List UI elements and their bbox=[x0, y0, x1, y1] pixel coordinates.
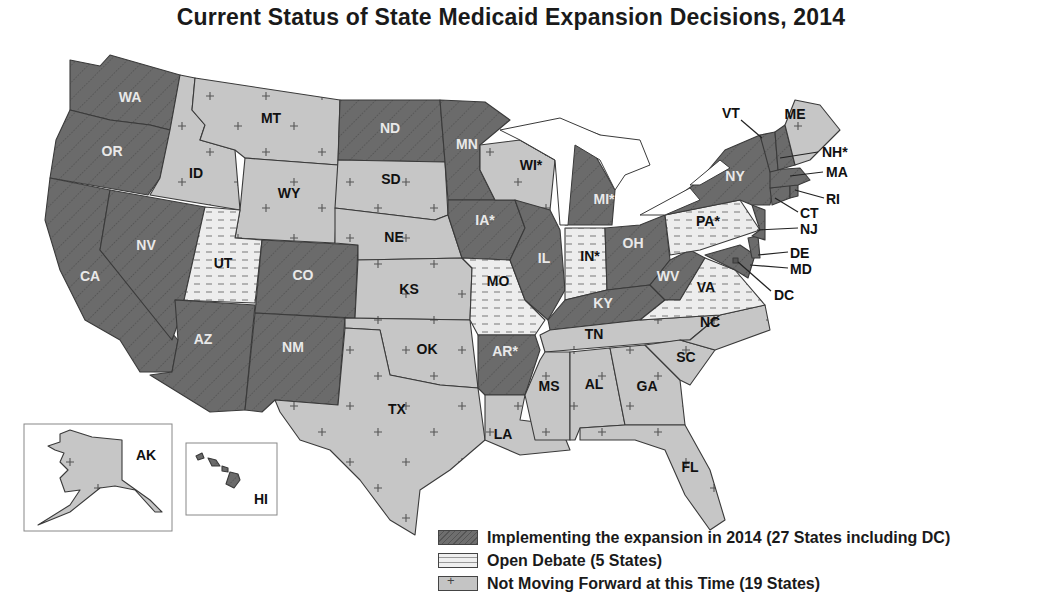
us-map: WA OR CA NV ID MT WY UT CO AZ NM ND SD N… bbox=[0, 0, 1052, 615]
label-KY: KY bbox=[593, 295, 613, 311]
label-AL: AL bbox=[585, 376, 604, 392]
state-IN[interactable] bbox=[565, 228, 607, 300]
label-KS: KS bbox=[399, 281, 418, 297]
label-HI: HI bbox=[254, 491, 268, 507]
swatch-implementing bbox=[438, 530, 478, 545]
label-VT: VT bbox=[722, 105, 740, 121]
label-ME: ME bbox=[785, 106, 806, 122]
label-AZ: AZ bbox=[194, 331, 213, 347]
legend-item-open-debate: Open Debate (5 States) bbox=[438, 549, 950, 572]
label-IL: IL bbox=[538, 250, 551, 266]
label-UT: UT bbox=[214, 255, 233, 271]
label-NC: NC bbox=[700, 314, 720, 330]
label-CO: CO bbox=[293, 267, 314, 283]
label-IN: IN* bbox=[580, 248, 600, 264]
label-WA: WA bbox=[119, 89, 142, 105]
label-MI: MI* bbox=[594, 191, 616, 207]
label-OR: OR bbox=[102, 143, 123, 159]
label-CA: CA bbox=[80, 268, 100, 284]
state-IA[interactable] bbox=[448, 200, 525, 260]
label-ID: ID bbox=[189, 165, 203, 181]
label-NJ: NJ bbox=[800, 221, 818, 237]
label-SD: SD bbox=[381, 171, 400, 187]
label-OK: OK bbox=[417, 341, 438, 357]
legend-label-not-moving: Not Moving Forward at this Time (19 Stat… bbox=[487, 575, 820, 593]
label-MO: MO bbox=[487, 273, 510, 289]
state-FL[interactable] bbox=[580, 425, 725, 530]
label-VA: VA bbox=[697, 279, 715, 295]
label-NV: NV bbox=[136, 237, 156, 253]
legend-label-open-debate: Open Debate (5 States) bbox=[487, 552, 662, 570]
label-PA: PA* bbox=[696, 213, 720, 229]
label-FL: FL bbox=[681, 459, 699, 475]
label-AK: AK bbox=[136, 447, 156, 463]
legend-item-not-moving: Not Moving Forward at this Time (19 Stat… bbox=[438, 572, 950, 595]
label-RI: RI bbox=[826, 191, 840, 207]
legend-label-implementing: Implementing the expansion in 2014 (27 S… bbox=[487, 529, 950, 547]
label-MN: MN bbox=[456, 136, 478, 152]
label-ND: ND bbox=[380, 120, 400, 136]
label-WI: WI* bbox=[520, 157, 543, 173]
label-TN: TN bbox=[585, 326, 604, 342]
label-MD: MD bbox=[790, 261, 812, 277]
label-WY: WY bbox=[278, 185, 301, 201]
label-NH: NH* bbox=[822, 144, 848, 160]
label-MS: MS bbox=[539, 378, 560, 394]
legend-item-implementing: Implementing the expansion in 2014 (27 S… bbox=[438, 526, 950, 549]
state-RI[interactable] bbox=[790, 185, 798, 198]
label-DC: DC bbox=[774, 287, 794, 303]
legend: Implementing the expansion in 2014 (27 S… bbox=[438, 526, 950, 595]
label-NM: NM bbox=[282, 339, 304, 355]
label-MA: MA bbox=[826, 164, 848, 180]
label-OH: OH bbox=[623, 235, 644, 251]
state-DC[interactable] bbox=[733, 258, 738, 263]
label-TX: TX bbox=[388, 401, 407, 417]
label-IA: IA* bbox=[475, 212, 495, 228]
label-GA: GA bbox=[637, 378, 658, 394]
label-NY: NY bbox=[725, 168, 745, 184]
label-SC: SC bbox=[676, 349, 695, 365]
swatch-not-moving bbox=[438, 576, 478, 591]
label-NE: NE bbox=[384, 229, 403, 245]
label-AR: AR* bbox=[492, 343, 518, 359]
label-WV: WV bbox=[657, 268, 680, 284]
label-CT: CT bbox=[800, 205, 819, 221]
label-LA: LA bbox=[494, 426, 513, 442]
label-DE: DE bbox=[790, 245, 809, 261]
swatch-open-debate bbox=[438, 553, 478, 568]
label-MT: MT bbox=[261, 110, 282, 126]
state-NM[interactable] bbox=[245, 313, 345, 412]
